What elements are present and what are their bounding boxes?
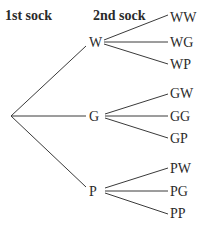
- edge-p-pw: [105, 168, 168, 188]
- leaf-gw: GW: [170, 86, 194, 101]
- header-first-sock: 1st sock: [5, 8, 52, 23]
- node-p: P: [89, 184, 97, 199]
- header-second-sock: 2nd sock: [93, 8, 146, 23]
- edge-root-p: [11, 116, 86, 187]
- leaf-pp: PP: [170, 206, 186, 221]
- edge-g-gp: [105, 118, 168, 138]
- leaf-wp: WP: [170, 57, 191, 72]
- tree-diagram: 1st sock 2nd sock W WW WG WP G GW GG GP …: [0, 0, 200, 228]
- node-g: G: [89, 109, 99, 124]
- edge-p-pp: [105, 193, 168, 214]
- edge-root-w: [11, 46, 86, 116]
- edge-g-gw: [105, 94, 168, 114]
- leaf-pg: PG: [170, 184, 188, 199]
- leaf-ww: WW: [170, 10, 197, 25]
- leaf-gg: GG: [170, 109, 190, 124]
- leaf-wg: WG: [170, 35, 193, 50]
- edge-w-wp: [104, 44, 168, 64]
- node-w: W: [89, 35, 103, 50]
- leaf-gp: GP: [170, 131, 188, 146]
- leaf-pw: PW: [170, 161, 192, 176]
